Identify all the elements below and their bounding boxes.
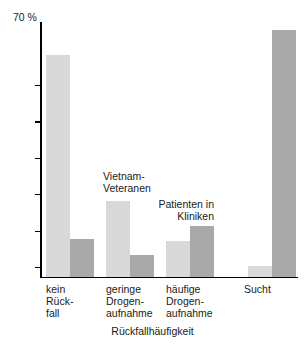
- bar-vietnam-veteranen-sucht: [248, 266, 272, 277]
- y-tick-40: [35, 158, 40, 159]
- x-category-label-haeufige-drogenaufnahme: häufige Drogen- aufnahme: [166, 283, 213, 320]
- y-axis-unit-label: 70 %: [13, 12, 37, 23]
- y-tick-10: [35, 267, 40, 268]
- annotation-vietnam-veteranen: Vietnam- Veteranen: [103, 170, 151, 194]
- bar-patienten-in-kliniken-haeufige-drogenaufnahme: [190, 226, 214, 277]
- bar-vietnam-veteranen-kein-rueckfall: [46, 55, 70, 277]
- bar-chart: 70 % 60 50 40 30 20 10 Vietnam- Veterane…: [0, 0, 305, 345]
- annotation-patienten-in-kliniken: Patienten in Kliniken: [140, 198, 214, 222]
- x-axis-title: Rückfallhäufigkeit: [0, 325, 305, 337]
- y-tick-50: [35, 121, 40, 122]
- y-tick-20: [35, 231, 40, 232]
- plot-area: 60 50 40 30 20 10 Vietnam- Veteranen Pat…: [40, 22, 300, 277]
- x-category-label-geringe-drogenaufnahme: geringe Drogen- aufnahme: [106, 283, 153, 320]
- x-category-label-kein-rueckfall: kein Rück- fall: [46, 283, 73, 320]
- bar-vietnam-veteranen-geringe-drogenaufnahme: [106, 201, 130, 277]
- y-tick-30: [35, 194, 40, 195]
- y-tick-60: [35, 85, 40, 86]
- bar-patienten-in-kliniken-sucht: [272, 30, 296, 278]
- x-category-label-sucht: Sucht: [244, 283, 271, 295]
- bar-patienten-in-kliniken-kein-rueckfall: [70, 239, 94, 277]
- bar-patienten-in-kliniken-geringe-drogenaufnahme: [130, 255, 154, 277]
- bar-vietnam-veteranen-haeufige-drogenaufnahme: [166, 241, 190, 277]
